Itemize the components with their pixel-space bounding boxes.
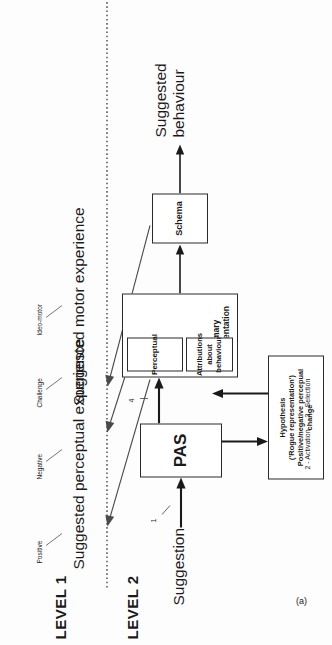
figure-page: PAS (thick arrow) --> Perceptual (upward… (0, 0, 332, 645)
attributions-line-1: Attributions about (195, 332, 214, 375)
qualifier-challenge: Challenge (36, 378, 43, 407)
hypothesis-line-1: Hypothesis (278, 397, 287, 437)
hypothesis-line-2: ('Rogue representation') (287, 375, 296, 460)
process-label-3-selection: 3 - Selection (304, 378, 312, 417)
process-label-4: 4 (128, 398, 136, 402)
level-1-label: LEVEL 1 (52, 575, 69, 639)
outcome-suggested-motor-experience: Suggested motor experience (70, 207, 88, 405)
qualifier-negative: Negative (36, 453, 43, 479)
output-line-2: behaviour (170, 63, 188, 137)
input-suggestion: Suggestion (170, 527, 188, 605)
box-perceptual: Perceptual (127, 337, 183, 371)
panel-label: (a) (296, 596, 307, 606)
box-hypothesis: Hypothesis ('Rogue representation') Posi… (268, 355, 324, 479)
qualifier-positive: Positive (36, 540, 43, 563)
qualifier-ideo-motor: Ideo-motor (36, 304, 43, 335)
box-pas: PAS (140, 423, 222, 477)
attributions-line-2: behaviour (214, 336, 223, 372)
diagram-canvas: PAS (thick arrow) --> Perceptual (upward… (0, 0, 332, 645)
level-2-label: LEVEL 2 (124, 575, 141, 639)
output-suggested-behaviour: Suggested behaviour (152, 63, 189, 137)
box-schema: Schema (152, 193, 208, 243)
output-line-1: Suggested (152, 63, 170, 137)
box-attributions-about-behaviour: Attributions about behaviour (186, 337, 233, 371)
process-label-1: 1 (150, 518, 158, 522)
process-label-2-activation: 2 - Activation (304, 429, 312, 469)
